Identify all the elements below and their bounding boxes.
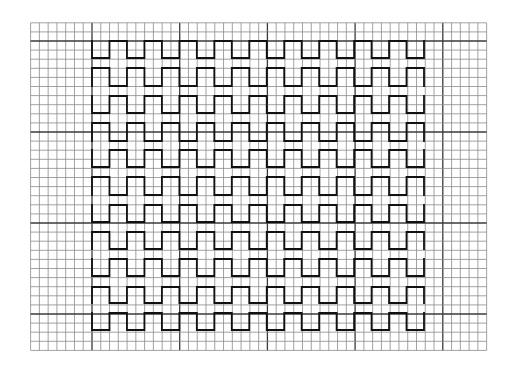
graph-paper-grid [31, 23, 487, 351]
square-wave-row-8 [92, 232, 424, 249]
graph-paper-figure [0, 0, 514, 368]
square-wave-row-1 [92, 41, 424, 58]
square-wave-row-5 [92, 150, 424, 167]
square-wave-row-10 [92, 287, 424, 303]
square-wave-row-9 [92, 259, 424, 276]
square-wave-row-11 [92, 313, 424, 330]
square-wave-row-6 [92, 177, 424, 195]
